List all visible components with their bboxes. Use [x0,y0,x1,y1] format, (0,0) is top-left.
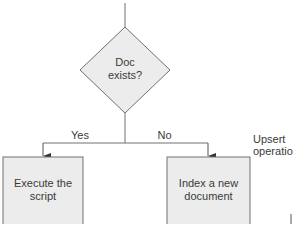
decision-line-2: exists? [95,69,155,82]
index-document-line-1: Index a new [167,177,250,190]
upsert-annotation: Upsert operation [253,133,293,157]
execute-script-line-1: Execute the [3,177,83,190]
no-label: No [157,129,172,142]
execute-script-label: Execute the script [3,177,83,203]
index-document-label: Index a new document [167,177,250,203]
decision-line-1: Doc [95,56,155,69]
execute-script-line-2: script [3,190,83,203]
index-document-line-2: document [167,190,250,203]
decision-label: Doc exists? [95,56,155,82]
upsert-annotation-line-1: Upsert [253,133,293,145]
upsert-annotation-line-2: operation [253,145,293,157]
yes-label: Yes [71,129,88,142]
